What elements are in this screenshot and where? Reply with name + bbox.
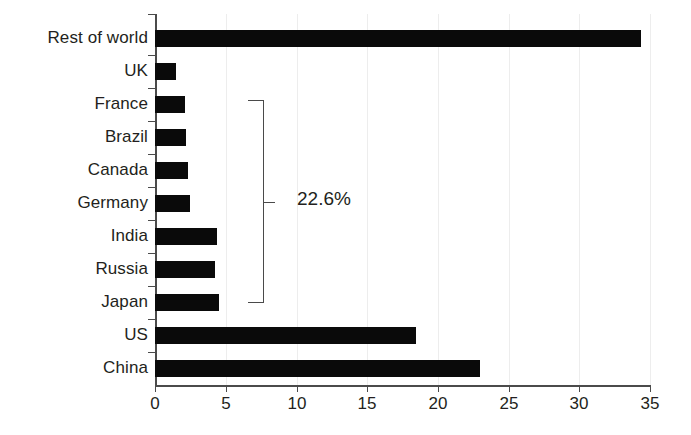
- annotation-bracket-label: 22.6%: [297, 188, 351, 209]
- category-label-japan: Japan: [5, 293, 148, 310]
- x-axis-tick: [155, 385, 156, 392]
- category-label-germany: Germany: [5, 194, 148, 211]
- x-axis-tick: [367, 385, 368, 392]
- y-axis-tick: [148, 319, 155, 320]
- bar-uk: [155, 63, 176, 80]
- x-axis-tick: [579, 385, 580, 392]
- category-label-china: China: [5, 359, 148, 376]
- bar-canada: [155, 162, 188, 179]
- bar-us: [155, 327, 416, 344]
- bar-china: [155, 360, 480, 377]
- category-label-canada: Canada: [5, 161, 148, 178]
- bar-japan: [155, 294, 219, 311]
- x-tick-label-5: 5: [206, 394, 246, 413]
- bar-rest-of-world: [155, 30, 641, 47]
- x-tick-label-10: 10: [277, 394, 317, 413]
- bar-france: [155, 96, 185, 113]
- y-axis-tick: [148, 55, 155, 56]
- x-tick-label-0: 0: [135, 394, 175, 413]
- x-axis-tick: [226, 385, 227, 392]
- bracket-arm-top: [248, 100, 264, 101]
- bar-brazil: [155, 129, 186, 146]
- y-axis-tick: [148, 187, 155, 188]
- bar-chart: Rest of world UK France Brazil Canada Ge…: [0, 0, 691, 435]
- y-axis-tick: [148, 253, 155, 254]
- y-axis-tick: [148, 88, 155, 89]
- bars-layer: [155, 14, 651, 385]
- x-tick-label-30: 30: [559, 394, 599, 413]
- category-label-russia: Russia: [5, 260, 148, 277]
- x-axis-tick: [297, 385, 298, 392]
- x-axis-tick: [438, 385, 439, 392]
- bar-germany: [155, 195, 190, 212]
- x-axis-line: [155, 385, 651, 387]
- y-axis-tick: [148, 154, 155, 155]
- x-axis-tick: [650, 385, 651, 392]
- annotation-bracket: [248, 100, 264, 303]
- category-label-india: India: [5, 227, 148, 244]
- x-tick-label-35: 35: [630, 394, 670, 413]
- category-label-us: US: [5, 326, 148, 343]
- y-axis-tick: [148, 121, 155, 122]
- x-tick-label-15: 15: [347, 394, 387, 413]
- x-tick-label-20: 20: [418, 394, 458, 413]
- category-label-brazil: Brazil: [5, 128, 148, 145]
- bar-russia: [155, 261, 215, 278]
- y-axis-tick: [148, 220, 155, 221]
- y-axis-tick: [148, 286, 155, 287]
- x-tick-label-25: 25: [489, 394, 529, 413]
- category-label-uk: UK: [5, 62, 148, 79]
- category-label-france: France: [5, 95, 148, 112]
- x-axis-tick: [509, 385, 510, 392]
- bracket-arm-bottom: [248, 302, 264, 303]
- bar-india: [155, 228, 217, 245]
- y-axis-tick: [148, 352, 155, 353]
- bracket-nub: [264, 202, 275, 204]
- y-axis-category-labels: Rest of world UK France Brazil Canada Ge…: [0, 0, 148, 435]
- y-axis-tick: [148, 14, 155, 15]
- category-label-rest-of-world: Rest of world: [5, 29, 148, 46]
